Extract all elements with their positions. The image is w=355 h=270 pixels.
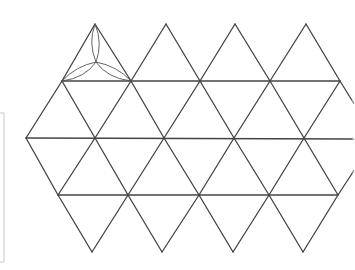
- diag-r2-r3-right: [304, 138, 338, 195]
- diag-r1-r2-left: [234, 81, 270, 138]
- diag-r1-r2-right: [270, 81, 304, 138]
- diag-r2-r3-right: [95, 138, 128, 195]
- top-triangle-right-edge: [306, 24, 340, 81]
- diag-r1-r2-right: [131, 81, 164, 138]
- diag-r1-r2-left: [26, 81, 62, 138]
- top-triangle-left-edge: [200, 24, 235, 81]
- top-triangle-left-edge: [270, 24, 306, 81]
- top-triangle-left-edge: [131, 24, 166, 81]
- bottom-triangle-left-edge: [199, 195, 233, 252]
- diag-r1-r2-left: [304, 81, 340, 138]
- diag-r2-r3-left: [199, 138, 234, 195]
- diag-r2-r3-right: [26, 138, 58, 195]
- bottom-triangle-right-edge: [233, 195, 269, 252]
- right-edge-marks: [352, 100, 354, 173]
- diag-r2-r3-right: [234, 138, 269, 195]
- left-frame: [0, 113, 4, 262]
- top-triangle-right-edge: [235, 24, 270, 81]
- triangle-grid-diagram: [0, 0, 355, 270]
- bottom-triangle-right-edge: [303, 195, 338, 252]
- bottom-triangle-left-edge: [58, 195, 92, 252]
- bottom-triangle-right-edge: [162, 195, 199, 252]
- diag-r2-r3-left: [128, 138, 164, 195]
- diag-r1-r2-left: [164, 81, 200, 138]
- top-triangle-right-edge: [95, 24, 131, 81]
- diag-r2-r3-right: [164, 138, 199, 195]
- diag-r1-r2-right: [62, 81, 95, 138]
- diag-r2-r3-left: [58, 138, 95, 195]
- top-triangle-left-edge: [62, 24, 95, 81]
- diag-r1-r2-left: [95, 81, 131, 138]
- diag-right-edge-upper: [340, 81, 353, 102]
- bottom-triangle-left-edge: [269, 195, 303, 252]
- diag-right-edge-lower: [338, 172, 353, 195]
- diag-r2-r3-left: [269, 138, 304, 195]
- bottom-triangle-right-edge: [92, 195, 128, 252]
- diag-r1-r2-right: [200, 81, 234, 138]
- top-triangle-right-edge: [166, 24, 200, 81]
- bottom-triangle-left-edge: [128, 195, 162, 252]
- petal-construction: [62, 24, 131, 81]
